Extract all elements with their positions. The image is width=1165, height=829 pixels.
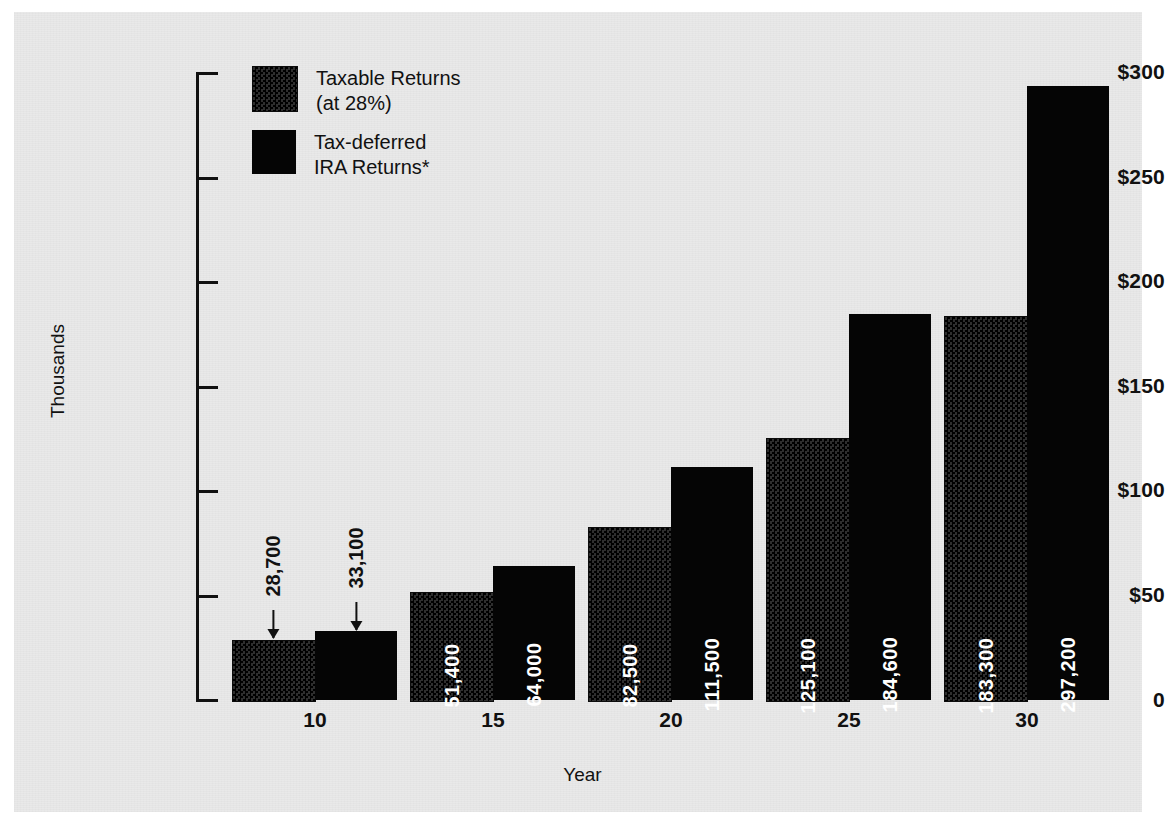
bar-value-184600: 184,600	[879, 637, 902, 713]
y-axis-bottom-cap	[196, 699, 218, 702]
y-tick-label-300: $300	[987, 60, 1165, 84]
x-tick-label-15: 15	[452, 708, 534, 732]
bar-taxable-20[interactable]: 82,500	[588, 527, 672, 702]
y-tick-300	[196, 72, 218, 75]
bar-value-28700: 28,700	[263, 535, 283, 596]
bar-value-183300: 183,300	[975, 638, 998, 714]
x-tick-label-30: 30	[986, 708, 1068, 732]
bar-value-51400: 51,400	[441, 643, 464, 707]
y-tick-50	[196, 595, 218, 598]
callout-28700: 28,700	[242, 556, 303, 638]
y-tick-250	[196, 177, 218, 180]
bar-value-64000: 64,000	[523, 642, 546, 706]
bar-ira-15[interactable]: 64,000	[493, 566, 575, 700]
legend-label-taxable-line1: Taxable Returns	[316, 66, 461, 91]
bar-value-297200: 297,200	[1057, 637, 1080, 713]
bar-value-33100: 33,100	[346, 527, 366, 588]
chart-page: $300 $250 $200 $150 $100 $50 0 Thousands…	[0, 0, 1165, 829]
callout-arrow-33100	[355, 602, 357, 630]
bar-taxable-10[interactable]	[232, 640, 316, 702]
bar-ira-30[interactable]: 297,200	[1027, 86, 1109, 700]
x-tick-label-20: 20	[630, 708, 712, 732]
bar-value-82500: 82,500	[619, 643, 642, 707]
bar-taxable-30[interactable]: 183,300	[944, 316, 1028, 702]
y-tick-150	[196, 386, 218, 389]
legend-swatch-taxable-icon	[252, 66, 298, 112]
y-axis-title: Thousands	[47, 291, 69, 451]
x-tick-label-10: 10	[274, 708, 356, 732]
legend-item-taxable[interactable]: Taxable Returns (at 28%)	[252, 66, 461, 116]
x-tick-label-25: 25	[808, 708, 890, 732]
bar-value-125100: 125,100	[797, 638, 820, 714]
legend-swatch-ira-icon	[252, 130, 296, 174]
y-tick-200	[196, 281, 218, 284]
legend-label-ira-line1: Tax-deferred	[314, 130, 430, 155]
bar-ira-20[interactable]: 111,500	[671, 467, 753, 700]
y-tick-100	[196, 490, 218, 493]
x-axis-title: Year	[0, 764, 1165, 786]
bar-chart: $300 $250 $200 $150 $100 $50 0 Thousands…	[0, 0, 1165, 829]
legend-label-taxable-line2: (at 28%)	[316, 91, 461, 116]
bar-taxable-25[interactable]: 125,100	[766, 438, 850, 702]
legend-item-ira[interactable]: Tax-deferred IRA Returns*	[252, 130, 461, 180]
bar-ira-25[interactable]: 184,600	[849, 314, 931, 700]
bar-ira-10[interactable]	[315, 631, 397, 700]
callout-33100: 33,100	[325, 548, 386, 630]
bar-value-111500: 111,500	[701, 638, 724, 712]
chart-legend: Taxable Returns (at 28%) Tax-deferred IR…	[252, 66, 461, 194]
bar-taxable-15[interactable]: 51,400	[410, 592, 494, 702]
legend-label-ira-line2: IRA Returns*	[314, 155, 430, 180]
callout-arrow-28700	[272, 610, 274, 638]
